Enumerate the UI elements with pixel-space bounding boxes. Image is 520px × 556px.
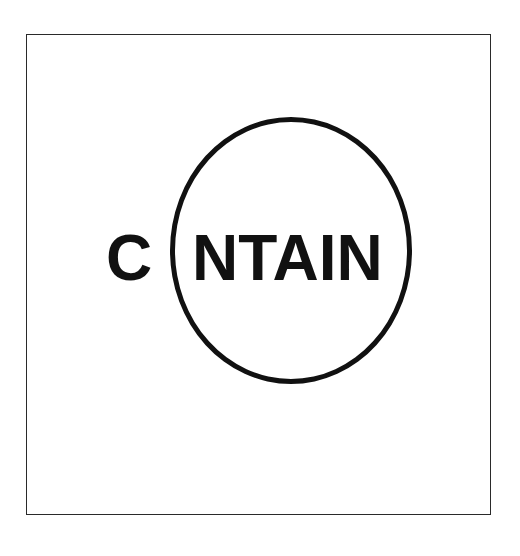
letter-c: C xyxy=(106,226,152,290)
letters-ntain: NTAIN xyxy=(192,226,383,290)
